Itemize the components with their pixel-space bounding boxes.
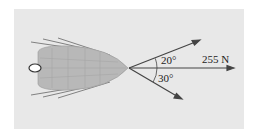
motor-icon [29,64,41,72]
angle-arc-20 [155,58,157,68]
angle-label-upper: 20° [161,54,176,66]
resultant-label: 255 N [202,53,229,65]
force-diagram: 20° 30° 255 N [0,0,256,136]
angle-arc-30 [153,68,157,82]
angle-label-lower: 30° [158,72,173,84]
force-vectors [129,40,234,99]
